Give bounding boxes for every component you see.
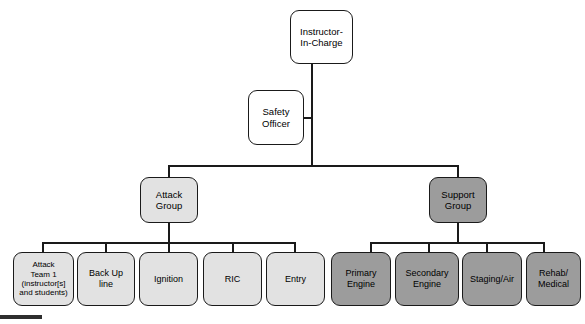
node-rehab-medical[interactable]: Rehab/ Medical	[526, 252, 581, 306]
node-support-group-label: Support Group	[439, 189, 476, 211]
node-ric-label: RIC	[223, 274, 243, 285]
node-instructor-in-charge[interactable]: Instructor- In-Charge	[290, 10, 353, 64]
node-attack-group-label: Attack Group	[154, 189, 184, 211]
node-instructor-in-charge-label: Instructor- In-Charge	[298, 26, 345, 48]
node-primary-engine[interactable]: Primary Engine	[331, 252, 391, 306]
connector-level3-bus	[168, 165, 459, 167]
node-safety-officer[interactable]: Safety Officer	[248, 90, 304, 145]
node-support-group[interactable]: Support Group	[429, 177, 487, 223]
connector-support-group-stem	[457, 222, 459, 243]
node-back-up-line-label: Back Up line	[87, 268, 125, 289]
connector-trunk-vertical	[311, 63, 313, 166]
node-staging-air[interactable]: Staging/Air	[462, 252, 522, 306]
node-back-up-line[interactable]: Back Up line	[77, 252, 135, 306]
node-ignition-label: Ignition	[152, 274, 185, 285]
node-entry[interactable]: Entry	[266, 252, 325, 306]
node-attack-group[interactable]: Attack Group	[140, 177, 198, 223]
connector-attack-group-stem	[168, 222, 170, 243]
node-entry-label: Entry	[283, 274, 308, 285]
connector-support-children-bus	[370, 242, 545, 244]
node-secondary-engine[interactable]: Secondary Engine	[395, 252, 459, 306]
node-attack-team-1-label: Attack Team 1 (instructor[s] and student…	[17, 260, 69, 298]
connector-safety-officer-stub	[303, 117, 313, 119]
node-safety-officer-label: Safety Officer	[260, 106, 292, 128]
page-edge-marker	[0, 315, 42, 319]
org-chart-diagram: Instructor- In-Charge Safety Officer Att…	[0, 0, 585, 324]
node-ric[interactable]: RIC	[203, 252, 262, 306]
node-secondary-engine-label: Secondary Engine	[403, 268, 450, 289]
node-attack-team-1[interactable]: Attack Team 1 (instructor[s] and student…	[13, 252, 74, 306]
node-staging-air-label: Staging/Air	[468, 274, 516, 285]
node-ignition[interactable]: Ignition	[139, 252, 198, 306]
node-primary-engine-label: Primary Engine	[344, 268, 379, 289]
node-rehab-medical-label: Rehab/ Medical	[536, 268, 571, 289]
